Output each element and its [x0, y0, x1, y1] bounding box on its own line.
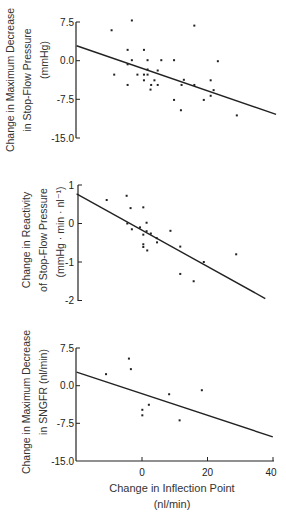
data-point — [160, 59, 162, 61]
data-point — [210, 79, 212, 81]
data-point — [179, 273, 181, 275]
data-point — [142, 243, 144, 245]
data-point — [142, 206, 144, 208]
y-tick-label: 1 — [68, 180, 74, 191]
regression-line — [77, 372, 273, 437]
data-point — [173, 59, 175, 61]
y-tick-label: 7.5 — [60, 343, 74, 354]
y-axis-label-line-1: Change in Maximum Decrease — [20, 330, 32, 474]
data-point — [142, 234, 144, 236]
data-point — [150, 84, 152, 86]
data-point — [126, 195, 128, 197]
data-point — [141, 409, 143, 411]
data-point — [193, 280, 195, 282]
data-point — [113, 74, 115, 76]
data-point — [217, 60, 219, 62]
data-points — [105, 358, 203, 422]
data-point — [146, 249, 148, 251]
data-point — [183, 79, 185, 81]
x-tick-label: 0 — [139, 467, 145, 478]
data-point — [179, 246, 181, 248]
data-point — [130, 207, 132, 209]
data-point — [179, 419, 181, 421]
x-tick-label: 40 — [265, 467, 277, 478]
y-axis-label-line-2: in Stop-Flow Pressure — [21, 28, 33, 131]
data-point — [210, 95, 212, 97]
y-tick-label: -15.0 — [51, 456, 74, 467]
data-point — [156, 241, 158, 243]
y-axis-label-line-2: in SNGFR (nl/min) — [37, 349, 49, 435]
data-point — [180, 109, 182, 111]
data-point — [150, 89, 152, 91]
data-point — [173, 99, 175, 101]
data-point — [127, 84, 129, 86]
data-point — [169, 230, 171, 232]
data-points — [106, 195, 237, 282]
panel-stop-flow-reactivity: Change in Reactivity of Stop-Flow Pressu… — [20, 180, 265, 306]
data-point — [201, 389, 203, 391]
regression-line — [77, 194, 266, 299]
y-ticks: 1 0 -1 -2 — [65, 180, 82, 306]
y-axis-label-line-3: (mmHg) — [38, 41, 50, 79]
data-point — [127, 49, 129, 51]
data-point — [136, 74, 138, 76]
regression-line — [77, 46, 276, 115]
data-point — [157, 84, 159, 86]
y-tick-label: 0.0 — [60, 380, 74, 391]
panel-stop-flow-pressure-decrease: Change in Maximum Decrease in Stop-Flow … — [4, 8, 276, 152]
data-point — [148, 404, 150, 406]
data-point — [203, 99, 205, 101]
data-point — [143, 49, 145, 51]
data-point — [168, 393, 170, 395]
data-point — [236, 114, 238, 116]
y-tick-label: -1 — [65, 257, 74, 268]
y-tick-label: 7.5 — [60, 17, 74, 28]
y-tick-label: -7.5 — [57, 418, 75, 429]
data-point — [131, 228, 133, 230]
data-point — [157, 70, 159, 72]
data-point — [142, 246, 144, 248]
data-point — [143, 79, 145, 81]
panel-sngfr-decrease: Change in Maximum Decrease in SNGFR (nl/… — [20, 330, 277, 510]
y-tick-label: 0.0 — [60, 55, 74, 66]
data-point — [147, 59, 149, 61]
data-point — [235, 253, 237, 255]
data-point — [143, 74, 145, 76]
data-point — [147, 74, 149, 76]
data-point — [130, 368, 132, 370]
data-point — [131, 59, 133, 61]
y-axis-label-line-2: of Stop-Flow Pressure — [37, 188, 49, 292]
data-point — [111, 29, 113, 31]
data-point — [213, 89, 215, 91]
data-point — [193, 25, 195, 27]
y-tick-label: -2 — [65, 295, 74, 306]
data-point — [203, 261, 205, 263]
data-point — [105, 373, 107, 375]
x-axis-label-line-1: Change in Inflection Point — [109, 482, 234, 494]
data-point — [181, 84, 183, 86]
data-points — [111, 19, 238, 116]
data-point — [146, 222, 148, 224]
y-tick-label: -15.0 — [51, 133, 74, 144]
x-ticks: 0 20 40 — [139, 457, 277, 478]
data-point — [128, 358, 130, 360]
data-point — [106, 199, 108, 201]
y-axis-label-line-1: Change in Maximum Decrease — [4, 8, 16, 152]
figure: Change in Maximum Decrease in Stop-Flow … — [0, 0, 286, 514]
data-point — [131, 19, 133, 21]
data-point — [141, 414, 143, 416]
x-tick-label: 20 — [202, 467, 214, 478]
y-tick-label: -7.5 — [57, 94, 75, 105]
y-axis-label-line-1: Change in Reactivity — [20, 191, 32, 288]
x-axis-label-line-2: (nl/min) — [154, 498, 191, 510]
y-tick-label: 0 — [68, 218, 74, 229]
data-point — [153, 79, 155, 81]
